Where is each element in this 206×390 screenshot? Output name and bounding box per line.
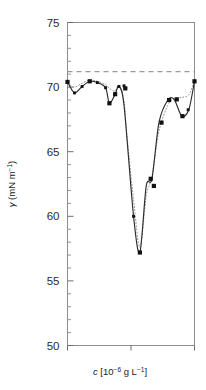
data-point-marker — [65, 80, 69, 84]
data-point-marker — [107, 101, 111, 105]
data-point-marker — [73, 91, 76, 94]
data-point-marker — [88, 79, 92, 83]
x-axis-bracket-open: [10 — [100, 366, 113, 377]
data-point-marker — [113, 92, 117, 96]
y-tick-label: 55 — [47, 275, 60, 287]
chart-background — [0, 0, 206, 390]
data-point-marker — [180, 114, 184, 118]
data-point-marker — [175, 97, 179, 101]
data-point-marker — [123, 86, 127, 90]
y-tick-label: 65 — [47, 146, 60, 158]
data-point-marker — [132, 215, 135, 218]
data-point-marker — [117, 85, 120, 88]
x-axis-mid: g L — [121, 366, 137, 377]
data-point-marker — [104, 86, 107, 89]
data-point-marker — [192, 79, 196, 83]
surface-tension-chart: 505560657075 γ (mN m−1) c [10−6 g L−1] — [0, 0, 206, 390]
y-tick-label: 75 — [47, 17, 60, 29]
y-axis-units-close: ) — [6, 161, 17, 164]
data-point-marker — [159, 121, 163, 125]
x-axis-bracket-close: ] — [144, 366, 147, 377]
data-point-marker — [187, 108, 190, 111]
y-axis-units: (mN m — [6, 171, 17, 200]
y-tick-label: 60 — [47, 210, 60, 222]
y-tick-label: 50 — [47, 340, 60, 352]
data-point-marker — [167, 98, 171, 102]
data-point-marker — [96, 81, 99, 84]
y-tick-label: 70 — [47, 81, 60, 93]
figure-container: 505560657075 γ (mN m−1) c [10−6 g L−1] — [0, 0, 206, 390]
data-point-marker — [149, 177, 153, 181]
data-point-marker — [81, 85, 84, 88]
data-point-marker — [138, 250, 142, 254]
data-point-marker — [152, 184, 156, 188]
